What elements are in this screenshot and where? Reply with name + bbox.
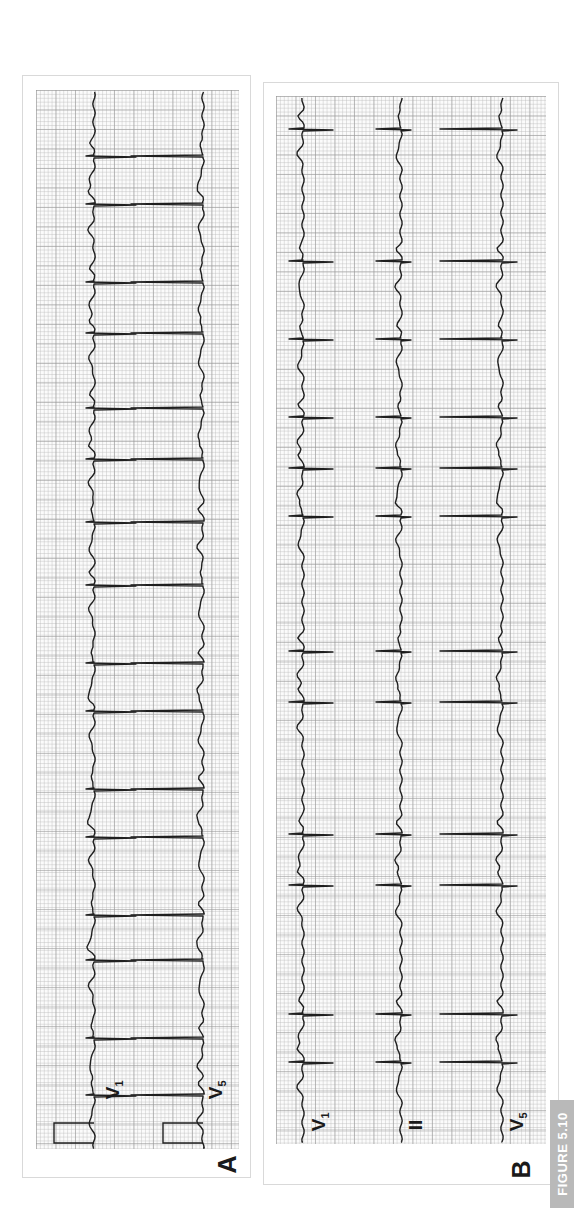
figure-number-badge: FIGURE 5.10 (550, 1100, 574, 1208)
panel-a-lead-v5-label: V5 (205, 1080, 229, 1099)
ecg-trace-a-v5 (131, 92, 204, 1148)
ecg-trace-a-v1 (86, 92, 136, 1148)
ecg-traces (0, 0, 579, 1208)
panel-b-lead-v1-label: V1 (308, 1112, 332, 1131)
ecg-trace-b-v1 (289, 98, 333, 1142)
ecg-trace-b-ii (376, 98, 411, 1142)
panel-b-letter: B (507, 1160, 536, 1178)
panel-b-lead-v5-label: V5 (506, 1112, 530, 1131)
panel-b-lead-ii-label: II (405, 1120, 429, 1131)
panel-a-letter: A (213, 1155, 242, 1173)
figure-number-label: FIGURE 5.10 (555, 1112, 570, 1196)
panel-a-lead-v1-label: V1 (102, 1080, 126, 1099)
ecg-trace-b-v5 (440, 98, 517, 1142)
calibration-pulse-v1 (54, 1123, 94, 1143)
calibration-pulse-v5 (163, 1123, 203, 1143)
